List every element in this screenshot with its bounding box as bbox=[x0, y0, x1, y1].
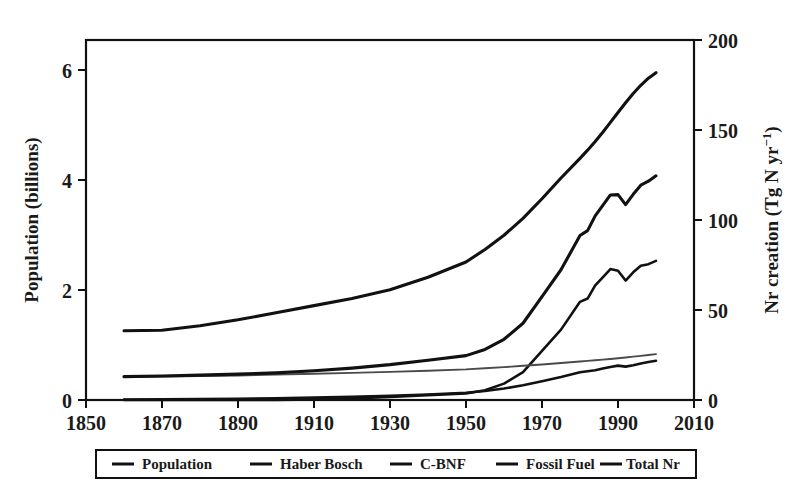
xtick-label-1990: 1990 bbox=[598, 412, 638, 434]
right-axis-tick-labels: 200 150 100 50 0 bbox=[708, 30, 738, 412]
series-line-haber-bosch bbox=[124, 261, 656, 400]
series-line-fossil-fuel bbox=[124, 361, 656, 400]
data-series-layer bbox=[124, 73, 656, 400]
series-line-population bbox=[124, 73, 656, 331]
legend: PopulationHaber BoschC-BNFFossil FuelTot… bbox=[112, 456, 680, 472]
legend-label-total-nr: Total Nr bbox=[626, 456, 680, 472]
legend-label-haber-bosch: Haber Bosch bbox=[280, 456, 363, 472]
y2-axis-title: Nr creation (Tg N yr−1) bbox=[759, 126, 783, 313]
svg-text:Nr creation (Tg N yr−1): Nr creation (Tg N yr−1) bbox=[759, 126, 783, 313]
population-nr-creation-chart: 6 4 2 0 Population (billions) 200 150 10… bbox=[0, 0, 793, 492]
left-axis-tick-labels: 6 4 2 0 bbox=[62, 60, 72, 412]
xtick-label-1950: 1950 bbox=[446, 412, 486, 434]
y2-axis-title-main: Nr creation (Tg N yr bbox=[761, 146, 783, 314]
y-axis-title: Population (billions) bbox=[21, 137, 43, 302]
ytick-label-2: 2 bbox=[62, 280, 72, 302]
x-axis-tick-labels: 1850 1870 1890 1910 1930 1950 1970 1990 … bbox=[66, 412, 714, 434]
left-axis-ticks bbox=[78, 70, 86, 400]
y2-axis-title-sup: −1 bbox=[759, 133, 774, 147]
y2tick-label-150: 150 bbox=[708, 120, 738, 142]
ytick-label-6: 6 bbox=[62, 60, 72, 82]
y2tick-label-100: 100 bbox=[708, 210, 738, 232]
ytick-label-4: 4 bbox=[62, 170, 72, 192]
legend-label-population: Population bbox=[142, 456, 213, 472]
y2tick-label-50: 50 bbox=[708, 300, 728, 322]
legend-label-c-bnf: C-BNF bbox=[420, 456, 466, 472]
xtick-label-2010: 2010 bbox=[674, 412, 714, 434]
y2-axis-title-close: ) bbox=[761, 126, 783, 132]
figure-container: 6 4 2 0 Population (billions) 200 150 10… bbox=[0, 0, 793, 492]
xtick-label-1890: 1890 bbox=[218, 412, 258, 434]
xtick-label-1930: 1930 bbox=[370, 412, 410, 434]
ytick-label-0: 0 bbox=[62, 390, 72, 412]
y2tick-label-0: 0 bbox=[708, 390, 718, 412]
plot-frame bbox=[86, 40, 694, 400]
right-axis-ticks bbox=[694, 40, 702, 400]
series-line-total-nr bbox=[124, 176, 656, 377]
xtick-label-1850: 1850 bbox=[66, 412, 106, 434]
xtick-label-1910: 1910 bbox=[294, 412, 334, 434]
y2tick-label-200: 200 bbox=[708, 30, 738, 52]
xtick-label-1970: 1970 bbox=[522, 412, 562, 434]
legend-label-fossil-fuel: Fossil Fuel bbox=[526, 456, 595, 472]
xtick-label-1870: 1870 bbox=[142, 412, 182, 434]
